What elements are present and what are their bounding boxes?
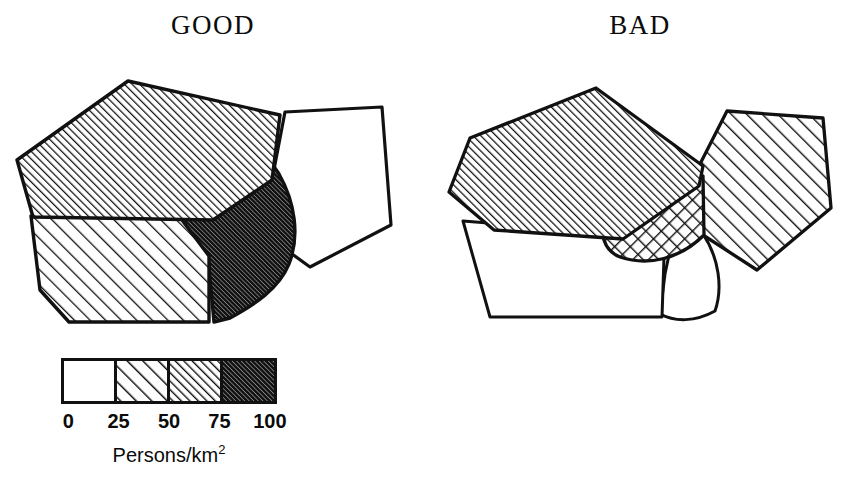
legend-tick-good-4: 100 (245, 410, 295, 433)
map-good (0, 60, 426, 350)
legend-good-swatch-0 (63, 360, 116, 403)
legend-tick-good-1: 25 (93, 410, 143, 433)
legend-tick-good-2: 50 (144, 410, 194, 433)
legend-tick-good-3: 75 (194, 410, 244, 433)
legend-caption-good: Persons/km2 (61, 444, 277, 467)
panel-title-good: GOOD (0, 9, 476, 41)
legend-caption-good-text: Persons/km (113, 444, 219, 466)
panel-title-bad: BAD (427, 9, 853, 41)
legend-good-swatch-1 (116, 360, 169, 403)
figure-canvas: GOOD (0, 0, 853, 497)
panel-bad: BAD (427, 0, 853, 497)
legend-good-swatch-2 (169, 360, 222, 403)
map-good-region-north-west (17, 81, 280, 220)
map-bad-region-east (699, 111, 831, 270)
legend-tick-good-0: 0 (43, 410, 93, 433)
legend-good-swatch-3 (222, 360, 276, 403)
legend-good: 0 25 50 75 100 Persons/km2 (61, 358, 277, 404)
legend-bar-good (61, 358, 277, 404)
legend-ticks-good: 0 25 50 75 100 (43, 410, 295, 433)
panel-good: GOOD (0, 0, 426, 497)
map-bad (427, 60, 853, 350)
legend-caption-good-superscript: 2 (218, 442, 225, 457)
map-good-region-south-west (31, 212, 209, 322)
